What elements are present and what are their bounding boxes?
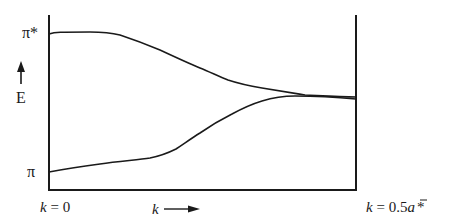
energy-arrowhead-icon [17,61,25,72]
pi-star-band-curve [49,32,356,97]
k-zero-label: k = 0 [40,199,70,215]
pi-band-curve [49,96,356,172]
pi-label: π [27,163,35,180]
k-axis-label: k [152,201,159,217]
band-structure-diagram: π* π E k = 0 k k = 0.5a* [0,0,450,224]
k-half-label: k = 0.5a* [366,199,424,215]
pi-star-label: π* [22,24,38,41]
k-arrowhead-icon [188,206,200,213]
energy-axis-label: E [16,89,26,106]
